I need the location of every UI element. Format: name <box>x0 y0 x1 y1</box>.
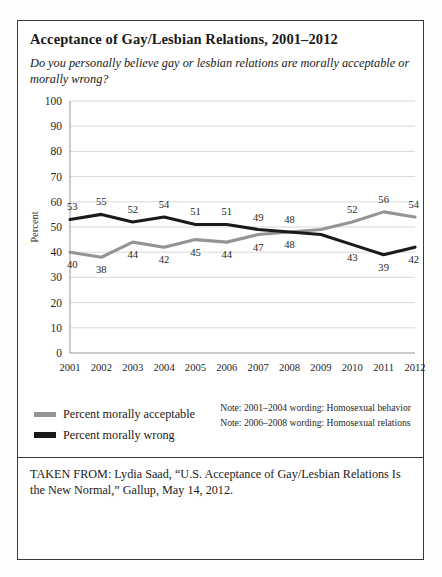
legend-label-wrong: Percent morally wrong <box>63 429 175 441</box>
y-axis-title: Percent <box>29 211 40 243</box>
y-axis-tick-label: 10 <box>51 322 63 334</box>
x-axis-tick-label: 2005 <box>185 362 206 373</box>
x-axis-tick-label: 2001 <box>59 362 80 373</box>
legend-swatch-acceptable-icon <box>34 412 56 417</box>
x-axis-tick-label: 2002 <box>91 362 112 373</box>
y-axis-tick-label: 70 <box>51 171 63 183</box>
data-point-label: 52 <box>127 204 138 215</box>
y-axis-tick-label: 0 <box>56 347 62 359</box>
line-chart: 0102030405060708090100Percent20012002200… <box>18 91 425 391</box>
legend-item-acceptable: Percent morally acceptable <box>34 408 220 420</box>
data-point-label: 45 <box>190 247 201 258</box>
figure-title: Acceptance of Gay/Lesbian Relations, 200… <box>30 31 411 48</box>
x-axis-tick-label: 2003 <box>122 362 143 373</box>
data-point-label: 51 <box>222 207 233 218</box>
legend-label-acceptable: Percent morally acceptable <box>63 408 195 420</box>
chart-notes: Note: 2001–2004 wording: Homosexual beha… <box>220 395 411 453</box>
x-axis-tick-label: 2006 <box>216 362 237 373</box>
figure-header: Acceptance of Gay/Lesbian Relations, 200… <box>18 21 423 91</box>
data-point-label: 47 <box>253 242 264 253</box>
data-point-label: 42 <box>408 254 419 265</box>
x-axis-tick-label: 2012 <box>404 362 425 373</box>
data-point-label: 54 <box>159 199 170 210</box>
y-axis-tick-label: 80 <box>51 146 63 158</box>
x-axis-tick-label: 2011 <box>373 362 394 373</box>
y-axis-tick-label: 50 <box>51 221 63 233</box>
x-axis-tick-label: 2007 <box>248 362 269 373</box>
note-line-2: Note: 2006–2008 wording: Homosexual rela… <box>220 416 411 431</box>
y-axis-tick-label: 20 <box>51 297 63 309</box>
x-axis-tick-label: 2010 <box>342 362 363 373</box>
data-point-label: 52 <box>347 204 358 215</box>
data-point-label: 42 <box>159 254 170 265</box>
data-point-label: 38 <box>96 264 107 275</box>
chart-canvas: 0102030405060708090100Percent20012002200… <box>18 91 425 391</box>
data-point-label: 40 <box>67 259 78 270</box>
source-block: TAKEN FROM: Lydia Saad, “U.S. Acceptance… <box>18 458 423 559</box>
data-point-label: 56 <box>378 194 389 205</box>
y-axis-tick-label: 100 <box>45 95 63 107</box>
data-point-label: 51 <box>190 207 201 218</box>
source-citation: TAKEN FROM: Lydia Saad, “U.S. Acceptance… <box>30 466 411 498</box>
y-axis-tick-label: 60 <box>51 196 63 208</box>
data-point-label: 48 <box>284 239 295 250</box>
data-point-label: 55 <box>96 197 107 208</box>
data-point-label: 44 <box>127 249 138 260</box>
x-axis-tick-label: 2008 <box>279 362 300 373</box>
data-point-label: 48 <box>284 214 295 225</box>
data-point-label: 39 <box>378 262 389 273</box>
note-line-1: Note: 2001–2004 wording: Homosexual beha… <box>220 401 411 416</box>
x-axis-tick-label: 2004 <box>153 362 175 373</box>
legend-swatch-wrong-icon <box>34 432 56 438</box>
data-point-label: 43 <box>347 252 358 263</box>
figure-container: Acceptance of Gay/Lesbian Relations, 200… <box>17 20 424 560</box>
data-point-label: 53 <box>67 202 78 213</box>
chart-legend: Percent morally acceptable Percent moral… <box>34 395 220 453</box>
legend-and-notes: Percent morally acceptable Percent moral… <box>18 391 423 453</box>
data-point-label: 44 <box>222 249 233 260</box>
figure-subtitle: Do you personally believe gay or lesbian… <box>30 55 411 87</box>
y-axis-tick-label: 30 <box>51 272 63 284</box>
y-axis-tick-label: 40 <box>51 246 63 258</box>
data-point-label: 49 <box>253 212 264 223</box>
data-point-label: 54 <box>408 199 419 210</box>
x-axis-tick-label: 2009 <box>310 362 331 373</box>
y-axis-tick-label: 90 <box>51 120 63 132</box>
legend-item-wrong: Percent morally wrong <box>34 429 220 441</box>
